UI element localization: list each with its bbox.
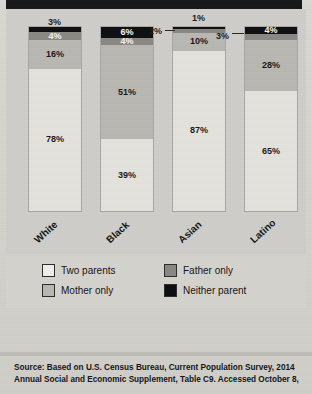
segment-white-father[interactable]: 4% <box>29 32 81 39</box>
leader-line-asian-father <box>165 30 175 31</box>
label-white-neither: 3% <box>48 17 61 27</box>
legend-label: Two parents <box>61 265 115 276</box>
legend-item-two-parents[interactable]: Two parents <box>42 264 115 277</box>
source-line-1: Source: Based on U.S. Census Bureau, Cur… <box>14 362 306 374</box>
segment-label: 39% <box>118 171 136 180</box>
axis-label-asian: Asian <box>176 219 204 245</box>
segment-label: 51% <box>118 88 136 97</box>
legend-item-neither-parent[interactable]: Neither parent <box>164 284 246 297</box>
label-asian-neither: 1% <box>192 13 205 23</box>
legend-label: Neither parent <box>183 285 246 296</box>
bar-black[interactable]: 6% 4% 51% 39% <box>100 26 154 212</box>
legend-swatch-neither-parent-icon <box>164 284 177 297</box>
legend-item-father-only[interactable]: Father only <box>164 264 233 277</box>
leader-line-latino-father <box>232 33 244 34</box>
page-background: 4% 16% 78% 3% 6% 4% 51% 39% <box>0 0 312 394</box>
legend-swatch-mother-only-icon <box>42 284 55 297</box>
segment-label: 28% <box>262 61 280 70</box>
segment-label: 65% <box>262 147 280 156</box>
segment-label: 4% <box>120 38 133 45</box>
bar-latino[interactable]: 4% 28% 65% <box>244 26 298 212</box>
segment-label: 4% <box>264 27 277 34</box>
cropped-title-band <box>6 0 302 9</box>
segment-label: 4% <box>48 32 61 39</box>
bar-white[interactable]: 4% 16% 78% <box>28 26 82 212</box>
source-note: Source: Based on U.S. Census Bureau, Cur… <box>14 362 306 387</box>
segment-black-mother[interactable]: 51% <box>101 45 153 139</box>
label-asian-father: 2% <box>149 26 162 36</box>
legend-label: Father only <box>183 265 233 276</box>
segment-label: 10% <box>190 37 208 46</box>
segment-black-father[interactable]: 4% <box>101 38 153 45</box>
segment-asian-two[interactable]: 87% <box>173 51 225 211</box>
segment-label: 78% <box>46 135 64 144</box>
segment-black-neither[interactable]: 6% <box>101 27 153 38</box>
footer-divider <box>0 352 312 356</box>
segment-label: 6% <box>120 28 133 37</box>
chart-legend: Two parents Mother only Father only Neit… <box>6 256 306 308</box>
segment-label: 87% <box>190 126 208 135</box>
segment-label: 16% <box>46 50 64 59</box>
segment-black-two[interactable]: 39% <box>101 139 153 211</box>
chart-plot-area: 4% 16% 78% 3% 6% 4% 51% 39% <box>6 9 306 254</box>
segment-white-mother[interactable]: 16% <box>29 40 81 69</box>
bar-asian[interactable]: 10% 87% <box>172 26 226 212</box>
legend-swatch-father-only-icon <box>164 264 177 277</box>
segment-latino-two[interactable]: 65% <box>245 91 297 211</box>
legend-label: Mother only <box>61 285 113 296</box>
axis-label-latino: Latino <box>248 217 278 245</box>
source-line-2: Annual Social and Economic Supplement, T… <box>14 374 306 386</box>
segment-latino-neither[interactable]: 4% <box>245 27 297 34</box>
segment-white-two[interactable]: 78% <box>29 69 81 211</box>
legend-item-mother-only[interactable]: Mother only <box>42 284 113 297</box>
segment-latino-mother[interactable]: 28% <box>245 40 297 92</box>
legend-swatch-two-parents-icon <box>42 264 55 277</box>
axis-label-white: White <box>32 219 60 245</box>
axis-label-black: Black <box>104 219 131 245</box>
label-latino-father: 3% <box>216 31 229 41</box>
